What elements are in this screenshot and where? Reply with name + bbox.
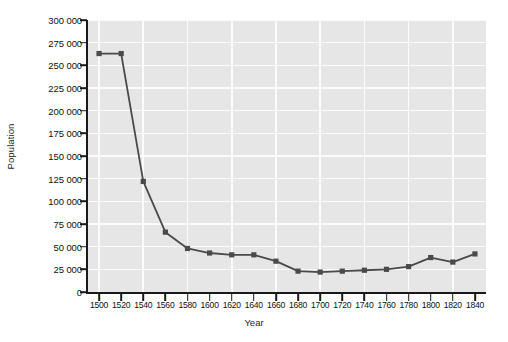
y-tick-label-50000: 50 000 (54, 241, 82, 252)
y-axis-line (86, 20, 88, 294)
x-tick-label-1820: 1820 (444, 300, 462, 310)
x-axis-title: Year (0, 317, 508, 328)
x-tick-label-1680: 1680 (289, 300, 307, 310)
y-tick-label-225000: 225 000 (48, 83, 82, 94)
y-tick-label-300000: 300 000 (48, 15, 82, 26)
population-line-chart: Population 025 00050 00075 000100 000125… (0, 0, 508, 342)
y-axis-title: Population (6, 123, 17, 169)
data-point-1600 (207, 250, 212, 255)
y-tick-label-75000: 75 000 (54, 219, 82, 230)
data-point-1620 (229, 252, 234, 257)
y-tick-label-200000: 200 000 (48, 105, 82, 116)
data-point-1680 (295, 269, 300, 274)
x-tick-label-1520: 1520 (112, 300, 130, 310)
data-point-1700 (318, 269, 323, 274)
data-point-1540 (141, 179, 146, 184)
data-point-1560 (163, 230, 168, 235)
x-tick-label-1500: 1500 (90, 300, 108, 310)
data-point-1740 (362, 268, 367, 273)
x-tick-label-1840: 1840 (466, 300, 484, 310)
y-tick-label-175000: 175 000 (48, 128, 82, 139)
data-point-1720 (340, 269, 345, 274)
x-tick-label-1600: 1600 (201, 300, 219, 310)
x-tick-label-1640: 1640 (245, 300, 263, 310)
x-tick-label-1660: 1660 (267, 300, 285, 310)
x-tick-label-1560: 1560 (156, 300, 174, 310)
y-tick-label-100000: 100 000 (48, 196, 82, 207)
x-tick-label-1540: 1540 (134, 300, 152, 310)
x-tick-label-1780: 1780 (400, 300, 418, 310)
series-line (99, 54, 475, 272)
data-point-1820 (450, 259, 455, 264)
x-tick-label-1580: 1580 (178, 300, 196, 310)
data-point-1660 (273, 259, 278, 264)
y-tick-label-275000: 275 000 (48, 37, 82, 48)
x-tick-label-1620: 1620 (223, 300, 241, 310)
data-point-1840 (472, 251, 477, 256)
x-tick-label-1760: 1760 (377, 300, 395, 310)
data-point-1640 (251, 252, 256, 257)
y-tick-label-0: 0 (77, 287, 82, 298)
x-tick-label-1700: 1700 (311, 300, 329, 310)
x-tick-label-1720: 1720 (333, 300, 351, 310)
x-axis-line (86, 292, 486, 294)
data-point-1520 (119, 51, 124, 56)
x-tick-label-1740: 1740 (355, 300, 373, 310)
y-axis-tick-labels: 025 00050 00075 000100 000125 000150 000… (18, 0, 82, 310)
x-tick-label-1800: 1800 (422, 300, 440, 310)
y-tick-label-150000: 150 000 (48, 151, 82, 162)
data-point-1800 (428, 255, 433, 260)
population-series (88, 20, 486, 292)
plot-area (88, 20, 486, 292)
y-tick-label-125000: 125 000 (48, 173, 82, 184)
data-point-1780 (406, 264, 411, 269)
y-tick-label-25000: 25 000 (54, 264, 82, 275)
data-point-1760 (384, 267, 389, 272)
data-point-1500 (96, 51, 101, 56)
y-tick-label-250000: 250 000 (48, 60, 82, 71)
x-axis-tick-labels: 1500152015401560158016001620164016601680… (0, 300, 508, 316)
data-point-1580 (185, 246, 190, 251)
